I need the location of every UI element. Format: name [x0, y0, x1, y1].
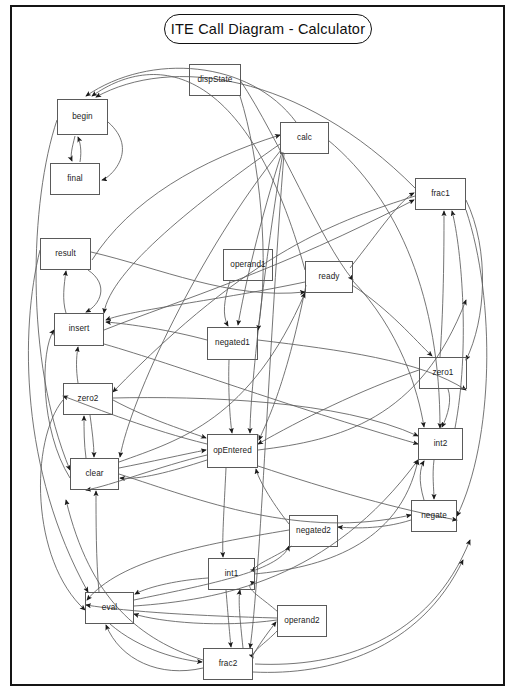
node-label: final [67, 175, 83, 183]
diagram-canvas: ITE Call Diagram - Calculator dispState … [0, 0, 515, 694]
node-calc[interactable]: calc [280, 122, 329, 154]
node-int1[interactable]: int1 [208, 558, 255, 590]
node-zero1[interactable]: zero1 [419, 357, 467, 389]
node-eval[interactable]: eval [85, 592, 134, 624]
node-ready[interactable]: ready [305, 261, 353, 293]
node-label: operand2 [284, 617, 319, 625]
node-label: int1 [225, 570, 239, 578]
node-int2[interactable]: int2 [418, 428, 463, 460]
node-label: dispState [197, 76, 232, 84]
node-label: eval [102, 604, 117, 612]
diagram-title: ITE Call Diagram - Calculator [164, 14, 372, 44]
node-label: frac1 [431, 190, 450, 198]
node-zero2[interactable]: zero2 [63, 383, 113, 415]
node-opEntered[interactable]: opEntered [207, 434, 258, 468]
node-label: insert [69, 325, 90, 333]
node-clear[interactable]: clear [70, 458, 119, 490]
node-layer: ITE Call Diagram - Calculator dispState … [0, 0, 515, 694]
diagram-title-text: ITE Call Diagram - Calculator [171, 21, 365, 37]
node-negated2[interactable]: negated2 [289, 515, 338, 547]
node-label: frac2 [219, 660, 238, 668]
node-label: opEntered [213, 447, 252, 455]
node-label: operand1 [230, 261, 265, 269]
node-label: clear [85, 470, 103, 478]
node-negated1[interactable]: negated1 [207, 327, 258, 360]
node-label: zero1 [433, 369, 454, 377]
node-label: zero2 [78, 395, 99, 403]
node-label: ready [319, 273, 340, 281]
node-label: negate [421, 512, 447, 520]
node-dispState[interactable]: dispState [189, 64, 241, 96]
node-label: negated1 [215, 339, 250, 347]
node-frac2[interactable]: frac2 [203, 648, 253, 680]
node-insert[interactable]: insert [54, 313, 104, 346]
node-begin[interactable]: begin [57, 99, 108, 135]
node-negate[interactable]: negate [411, 500, 457, 532]
node-operand2[interactable]: operand2 [277, 605, 327, 637]
node-operand1[interactable]: operand1 [223, 249, 273, 281]
node-frac1[interactable]: frac1 [415, 178, 466, 210]
node-final[interactable]: final [50, 163, 100, 195]
node-label: int2 [434, 440, 448, 448]
node-label: negated2 [296, 527, 331, 535]
node-result[interactable]: result [40, 238, 91, 270]
node-label: calc [297, 134, 312, 142]
node-label: begin [72, 113, 93, 121]
node-label: result [55, 250, 76, 258]
